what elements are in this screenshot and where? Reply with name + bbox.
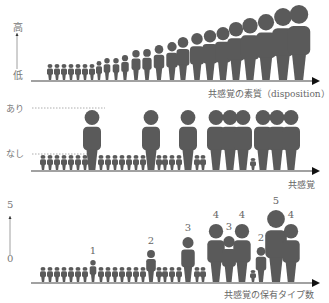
type-count-number: 3	[185, 222, 191, 233]
person-icon	[132, 50, 141, 80]
person-icon	[68, 155, 74, 170]
person-icon	[90, 260, 97, 282]
person-icon	[146, 250, 156, 282]
person-icon	[75, 155, 81, 170]
type-count-number: 2	[258, 232, 264, 243]
type-count-chart	[0, 195, 324, 303]
person-icon	[288, 5, 311, 80]
person-icon	[68, 64, 74, 80]
person-icon	[105, 155, 111, 170]
person-icon	[112, 267, 118, 282]
person-icon	[194, 267, 200, 282]
type-count-number: 5	[273, 195, 279, 206]
person-icon	[190, 33, 204, 80]
person-icon	[282, 224, 299, 282]
person-icon	[156, 267, 162, 282]
person-icon	[61, 267, 67, 282]
person-icon	[162, 267, 168, 282]
person-icon	[282, 110, 300, 170]
type-count-number: 4	[213, 209, 219, 220]
y-axis-max-label: 5	[7, 199, 13, 210]
person-icon	[54, 64, 60, 80]
y-axis-min-label: 0	[7, 253, 13, 264]
person-icon	[169, 267, 175, 282]
person-icon	[98, 267, 104, 282]
person-icon	[256, 247, 267, 282]
person-icon	[68, 267, 74, 282]
person-icon	[207, 224, 224, 282]
person-icon	[82, 64, 88, 80]
person-icon	[154, 45, 165, 80]
person-icon	[177, 37, 190, 80]
person-icon	[181, 237, 195, 282]
person-icon	[200, 267, 206, 282]
person-icon	[233, 224, 250, 282]
type-count-number: 3	[226, 221, 232, 232]
y-axis-no-label: なし	[6, 147, 24, 160]
person-icon	[126, 267, 132, 282]
person-icon	[162, 155, 168, 170]
person-icon	[250, 270, 256, 282]
x-axis-label: 共感覚の保有タイプ数	[224, 288, 314, 301]
person-icon	[121, 55, 129, 80]
person-icon	[61, 155, 67, 170]
person-icon	[82, 155, 88, 170]
person-icon	[104, 58, 111, 80]
person-icon	[176, 267, 182, 282]
person-icon	[75, 267, 81, 282]
person-icon	[89, 64, 95, 80]
x-axis-arrow-icon	[312, 279, 320, 287]
type-count-number: 1	[90, 245, 96, 256]
person-icon	[234, 110, 252, 170]
person-icon	[126, 155, 132, 170]
y-axis-yes-label: あり	[6, 102, 24, 115]
type-count-number: 2	[148, 235, 154, 246]
y-axis-low-label: 低	[13, 67, 23, 82]
x-axis-label: 共感覚	[288, 178, 315, 191]
person-icon	[133, 267, 139, 282]
person-icon	[142, 49, 151, 80]
person-icon	[250, 158, 256, 170]
person-icon	[54, 267, 60, 282]
person-icon	[156, 155, 162, 170]
person-icon	[47, 267, 53, 282]
person-icon	[105, 267, 111, 282]
person-icon	[113, 58, 120, 80]
person-icon	[112, 155, 118, 170]
person-icon	[200, 155, 206, 170]
person-icon	[176, 155, 182, 170]
person-icon	[96, 61, 102, 80]
y-axis-arrow-icon	[9, 216, 12, 219]
person-icon	[166, 42, 177, 80]
person-icon	[133, 155, 139, 170]
type-count-number: 4	[288, 209, 294, 220]
type-count-number: 4	[239, 209, 245, 220]
panel-synesthesia: あり なし 共感覚	[0, 100, 324, 195]
y-axis-high-label: 高	[13, 19, 23, 34]
person-icon	[82, 267, 88, 282]
person-icon	[140, 267, 146, 282]
person-icon	[75, 64, 81, 80]
person-icon	[140, 155, 146, 170]
x-axis-arrow-icon	[312, 167, 320, 175]
person-icon	[47, 155, 53, 170]
person-icon	[194, 155, 200, 170]
person-icon	[54, 155, 60, 170]
person-icon	[40, 267, 46, 282]
person-icon	[47, 64, 53, 80]
person-icon	[40, 155, 46, 170]
person-icon	[98, 155, 104, 170]
x-axis-label: 共感覚の素質（disposition）	[208, 87, 329, 100]
person-icon	[119, 267, 125, 282]
person-icon	[119, 155, 125, 170]
person-icon	[61, 64, 67, 80]
panel-type-count: 5 0 123434254 共感覚の保有タイプ数	[0, 195, 324, 303]
panel-disposition: 高 低 共感覚の素質（disposition）	[0, 0, 324, 100]
synesthesia-chart	[0, 100, 324, 195]
person-icon	[169, 155, 175, 170]
x-axis-arrow-icon	[312, 77, 320, 85]
disposition-chart	[0, 0, 324, 100]
